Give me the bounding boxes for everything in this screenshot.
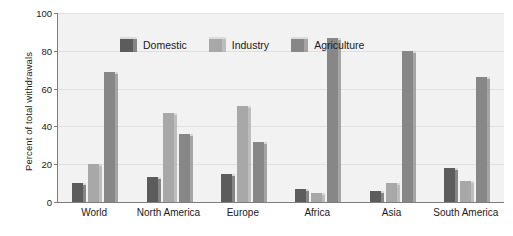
bar-side [190,134,193,202]
bar-top-highlight [174,113,177,115]
bar-group [72,13,118,202]
bar-side [99,164,102,202]
bar-face [476,77,487,202]
bar-face [386,183,397,202]
y-axis-tick-label: 20 [12,159,58,170]
bar [444,168,458,202]
x-axis-tick-label: South America [433,207,498,218]
x-axis-tick-label: North America [137,207,200,218]
bar-face [147,177,158,202]
bar-top-highlight [381,191,384,193]
bar-face [163,113,174,202]
legend-swatch-icon [120,37,137,52]
legend-item: Industry [209,37,269,52]
legend-item: Domestic [120,37,187,52]
bar-top-highlight [190,134,193,136]
bar-side [83,183,86,202]
x-axis-tick-label: World [81,207,107,218]
bar [327,38,341,202]
chart-legend: DomesticIndustryAgriculture [120,37,364,52]
bar-top-highlight [322,193,325,195]
bar-top-highlight [397,183,400,185]
bar [237,106,251,202]
y-axis-tick-label: 80 [12,45,58,56]
bar-side [264,142,267,202]
y-axis-tick-mark [54,51,58,52]
bar [221,174,235,202]
y-axis-tick-mark [54,126,58,127]
bar-side [455,168,458,202]
bar [163,113,177,202]
x-axis-tick-label: Asia [382,207,401,218]
bar [179,134,193,202]
bar-top-highlight [99,164,102,166]
bar-top-highlight [115,72,118,74]
gridline [58,89,504,90]
bar-face [311,193,322,202]
bar [295,189,309,202]
bar-side [174,113,177,202]
bar-face [88,164,99,202]
bar-face [72,183,83,202]
y-axis-tick-label: 60 [12,83,58,94]
legend-label: Domestic [143,39,187,51]
bar-face [327,38,338,202]
legend-swatch-side [222,39,226,52]
y-axis-tick-label: 40 [12,121,58,132]
x-axis-tick-label: Africa [304,207,330,218]
bar-side [232,174,235,202]
bar-top-highlight [471,181,474,183]
bar-face [444,168,455,202]
bar-group [444,13,490,202]
bar-side [248,106,251,202]
y-axis-tick-mark [54,164,58,165]
bar-side [413,51,416,202]
y-axis-tick-mark [54,202,58,203]
bar [104,72,118,202]
legend-item: Agriculture [291,37,364,52]
bar [370,191,384,202]
legend-swatch-face [291,39,304,52]
bar [147,177,161,202]
bar-chart-figure: Percent of total withdrawals 02040608010… [0,0,513,236]
bar-top-highlight [232,174,235,176]
bar-face [460,181,471,202]
legend-swatch-side [133,39,137,52]
bar-face [402,51,413,202]
bar [88,164,102,202]
bar-top-highlight [158,177,161,179]
legend-swatch-icon [291,37,308,52]
gridline [58,164,504,165]
y-axis-tick-label: 100 [12,8,58,19]
legend-swatch-top [291,37,308,39]
bar-face [253,142,264,202]
bar-top-highlight [413,51,416,53]
legend-label: Industry [232,39,269,51]
y-axis-tick-label: 0 [12,197,58,208]
bar-side [471,181,474,202]
bar [386,183,400,202]
bar [311,193,325,202]
bar-side [115,72,118,202]
bar-face [295,189,306,202]
y-axis-tick-mark [54,89,58,90]
legend-swatch-top [209,37,226,39]
bar-top-highlight [248,106,251,108]
bar [476,77,490,202]
bar-side [158,177,161,202]
bar-side [397,183,400,202]
gridline [58,13,504,14]
legend-swatch-face [120,39,133,52]
legend-swatch-icon [209,37,226,52]
y-axis-tick-mark [54,13,58,14]
bar-face [104,72,115,202]
bar-side [338,38,341,202]
plot-area: 020406080100 DomesticIndustryAgriculture [57,13,504,203]
bar-face [370,191,381,202]
bar-top-highlight [83,183,86,185]
x-axis-tick-label: Europe [227,207,259,218]
bar [460,181,474,202]
bar-top-highlight [487,77,490,79]
bar-face [221,174,232,202]
bar-face [179,134,190,202]
